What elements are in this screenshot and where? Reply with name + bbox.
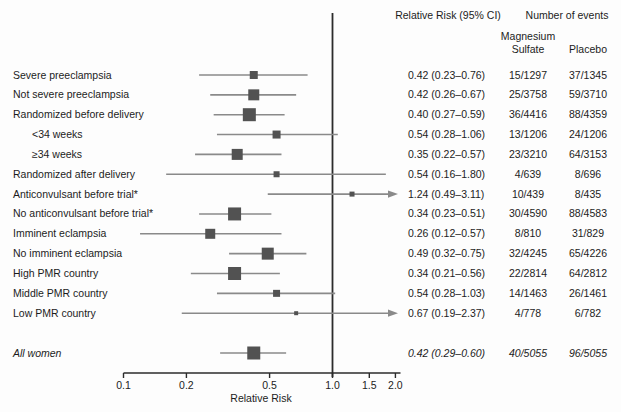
row-magnesium-events: 22/2814: [509, 267, 547, 280]
row-rr-ci-value: 0.40 (0.27–0.59): [408, 108, 485, 121]
point-estimate-square: [243, 108, 256, 121]
column-header-sulfate: Sulfate: [512, 43, 545, 56]
row-magnesium-events: 8/810: [515, 227, 541, 240]
point-estimate-square: [294, 311, 298, 315]
row-placebo-events: 37/1345: [569, 69, 607, 82]
row-label: No anticonvulsant before trial*: [13, 207, 153, 220]
x-axis-title: Relative Risk: [230, 392, 291, 405]
row-placebo-events: 31/829: [572, 227, 604, 240]
point-estimate-square: [248, 89, 259, 100]
point-estimate-square: [205, 229, 215, 239]
point-estimate-square: [247, 347, 260, 360]
forest-plot-figure: Relative Risk (95% CI) Number of events …: [0, 0, 621, 412]
row-magnesium-events: 23/3210: [509, 148, 547, 161]
row-magnesium-events: 40/5055: [509, 347, 547, 360]
row-label: Anticonvulsant before trial*: [13, 188, 138, 201]
row-label: Randomized after delivery: [13, 168, 135, 181]
row-placebo-events: 59/3710: [569, 88, 607, 101]
row-label: High PMR country: [13, 267, 98, 280]
row-rr-ci-value: 0.34 (0.21–0.56): [408, 267, 485, 280]
row-rr-ci-value: 1.24 (0.49–3.11): [408, 188, 484, 201]
row-label: Severe preeclampsia: [13, 69, 112, 82]
row-rr-ci-value: 0.54 (0.28–1.03): [408, 287, 485, 300]
row-placebo-events: 64/3153: [569, 148, 607, 161]
row-label: No imminent eclampsia: [13, 247, 122, 260]
column-header-relative-risk: Relative Risk (95% CI): [395, 9, 501, 22]
point-estimate-square: [232, 149, 243, 160]
row-rr-ci-value: 0.54 (0.16–1.80): [408, 168, 485, 181]
column-header-placebo: Placebo: [569, 43, 607, 56]
row-placebo-events: 88/4359: [569, 108, 607, 121]
row-label: Middle PMR country: [13, 287, 108, 300]
row-placebo-events: 6/782: [575, 307, 601, 320]
point-estimate-square: [350, 192, 355, 197]
row-magnesium-events: 13/1206: [509, 128, 547, 141]
column-header-number-of-events: Number of events: [526, 9, 609, 22]
point-estimate-square: [250, 71, 258, 79]
x-axis-tick-label: 0.2: [171, 379, 201, 391]
row-placebo-events: 8/435: [575, 188, 601, 201]
x-axis-tick-label: 0.5: [255, 379, 285, 391]
row-placebo-events: 26/1461: [569, 287, 607, 300]
x-axis-tick-label: 1.0: [318, 379, 348, 391]
row-placebo-events: 24/1206: [569, 128, 607, 141]
row-rr-ci-value: 0.49 (0.32–0.75): [408, 247, 485, 260]
row-placebo-events: 64/2812: [569, 267, 607, 280]
x-axis-tick-label: 0.1: [109, 379, 139, 391]
point-estimate-square: [262, 248, 274, 260]
point-estimate-square: [228, 267, 241, 280]
row-label: Imminent eclampsia: [13, 227, 106, 240]
point-estimate-square: [273, 131, 281, 139]
row-rr-ci-value: 0.54 (0.28–1.06): [408, 128, 485, 141]
x-axis-tick-label: 2.0: [380, 379, 410, 391]
row-rr-ci-value: 0.26 (0.12–0.57): [408, 227, 485, 240]
point-estimate-square: [274, 171, 280, 177]
row-label: Randomized before delivery: [13, 108, 144, 121]
row-rr-ci-value: 0.34 (0.23–0.51): [408, 207, 485, 220]
row-rr-ci-value: 0.42 (0.23–0.76): [408, 69, 485, 82]
ci-arrowhead-right-icon: [388, 191, 398, 198]
row-magnesium-events: 25/3758: [509, 88, 547, 101]
row-magnesium-events: 32/4245: [509, 247, 547, 260]
row-label: Not severe preeclampsia: [13, 88, 129, 101]
row-rr-ci-value: 0.35 (0.22–0.57): [408, 148, 485, 161]
row-magnesium-events: 15/1297: [509, 69, 547, 82]
row-placebo-events: 65/4226: [569, 247, 607, 260]
row-placebo-events: 96/5055: [569, 347, 607, 360]
row-magnesium-events: 30/4590: [509, 207, 547, 220]
row-placebo-events: 8/696: [575, 168, 601, 181]
row-magnesium-events: 4/778: [515, 307, 541, 320]
row-label: <34 weeks: [32, 128, 83, 141]
column-header-magnesium: Magnesium: [501, 30, 555, 43]
row-label: All women: [13, 347, 61, 360]
row-magnesium-events: 36/4416: [509, 108, 547, 121]
row-rr-ci-value: 0.42 (0.29–0.60): [408, 347, 485, 360]
row-magnesium-events: 10/439: [512, 188, 544, 201]
row-magnesium-events: 14/1463: [509, 287, 547, 300]
row-magnesium-events: 4/639: [515, 168, 541, 181]
point-estimate-square: [273, 290, 280, 297]
point-estimate-square: [228, 207, 241, 220]
row-rr-ci-value: 0.42 (0.26–0.67): [408, 88, 485, 101]
row-label: ≥34 weeks: [32, 148, 82, 161]
row-placebo-events: 88/4583: [569, 207, 607, 220]
row-label: Low PMR country: [13, 307, 96, 320]
row-rr-ci-value: 0.67 (0.19–2.37): [408, 307, 485, 320]
ci-arrowhead-right-icon: [388, 310, 398, 317]
